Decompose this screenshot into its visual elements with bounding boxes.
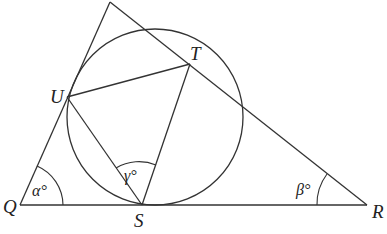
side-qp	[20, 2, 110, 205]
chord-ut	[67, 64, 190, 97]
label-q: Q	[3, 196, 17, 217]
geometry-diagram: P U T Q S R α° β° γ°	[0, 0, 387, 234]
label-t: T	[190, 43, 202, 64]
side-pr	[110, 2, 367, 205]
angle-label-gamma: γ°	[124, 167, 137, 185]
label-p: P	[105, 0, 118, 2]
label-r: R	[371, 201, 384, 222]
angle-label-beta: β°	[295, 181, 311, 199]
incircle	[67, 29, 243, 205]
label-s: S	[134, 210, 144, 231]
angle-arc-beta	[317, 174, 327, 205]
label-u: U	[50, 86, 65, 107]
chord-st	[142, 64, 190, 205]
angle-label-alpha: α°	[32, 182, 47, 199]
